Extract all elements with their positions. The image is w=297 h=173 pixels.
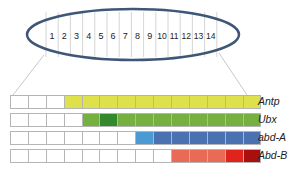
segment-number: 2	[62, 31, 67, 41]
segment-cell	[28, 131, 47, 145]
segment-cell	[28, 113, 47, 127]
segment-cell	[135, 131, 154, 145]
segment-cell	[64, 131, 83, 145]
segment-cell	[82, 131, 101, 145]
segment-cell	[171, 113, 190, 127]
segment-cell	[46, 113, 65, 127]
segment-number: 9	[147, 31, 152, 41]
segment-number: 3	[74, 31, 79, 41]
segment-cell	[46, 149, 65, 163]
segment-cell	[189, 95, 208, 109]
segment-cell	[117, 95, 136, 109]
segment-cell	[207, 131, 226, 145]
segment-cell	[153, 149, 172, 163]
segment-cell	[207, 113, 226, 127]
segment-numbers: 1234567891011121314	[50, 31, 216, 41]
segment-number: 4	[86, 31, 91, 41]
segment-cell	[153, 131, 172, 145]
gene-bar-ubx	[10, 113, 260, 126]
segment-cell	[99, 131, 118, 145]
segment-cell	[117, 113, 136, 127]
segment-cell	[99, 149, 118, 163]
segment-cell	[82, 149, 101, 163]
hox-expression-diagram: 1234567891011121314 AntpUbxabd-AAbd-B	[0, 0, 297, 173]
segment-cell	[10, 131, 29, 145]
segment-number: 8	[135, 31, 140, 41]
segment-number: 5	[98, 31, 103, 41]
segment-cell	[117, 149, 136, 163]
segment-cell	[135, 95, 154, 109]
segment-number: 13	[194, 31, 204, 41]
guide-line-right	[219, 53, 247, 95]
segment-cell	[28, 95, 47, 109]
gene-bar-antp	[10, 95, 260, 108]
segment-cell	[225, 95, 244, 109]
segment-cell	[171, 95, 190, 109]
segment-number: 7	[123, 31, 128, 41]
segment-number: 11	[170, 31, 179, 41]
guide-line-left	[13, 55, 44, 95]
gene-bar-abd-a	[10, 131, 260, 144]
segment-number: 10	[157, 31, 167, 41]
segment-number: 12	[182, 31, 192, 41]
segment-cell	[82, 95, 101, 109]
segment-dividers	[46, 12, 217, 57]
embryo-segments-diagram: 1234567891011121314	[0, 0, 297, 173]
segment-cell	[64, 95, 83, 109]
segment-cell	[10, 95, 29, 109]
segment-cell	[117, 131, 136, 145]
segment-cell	[153, 113, 172, 127]
segment-cell	[189, 131, 208, 145]
segment-cell	[82, 113, 101, 127]
segment-number: 14	[206, 31, 216, 41]
segment-cell	[225, 149, 244, 163]
gene-label: Ubx	[258, 113, 277, 126]
segment-cell	[99, 95, 118, 109]
segment-cell	[28, 149, 47, 163]
gene-label: abd-A	[258, 131, 286, 144]
segment-cell	[46, 95, 65, 109]
segment-cell	[135, 113, 154, 127]
gene-label: Abd-B	[258, 149, 287, 162]
gene-bar-abd-b	[10, 149, 260, 162]
segment-cell	[64, 149, 83, 163]
segment-cell	[225, 131, 244, 145]
segment-cell	[189, 149, 208, 163]
segment-cell	[207, 149, 226, 163]
segment-number: 1	[50, 31, 55, 41]
segment-cell	[64, 113, 83, 127]
segment-cell	[171, 149, 190, 163]
segment-cell	[135, 149, 154, 163]
segment-cell	[99, 113, 118, 127]
segment-cell	[10, 149, 29, 163]
segment-cell	[189, 113, 208, 127]
segment-cell	[10, 113, 29, 127]
segment-cell	[171, 131, 190, 145]
segment-number: 6	[111, 31, 116, 41]
segment-cell	[225, 113, 244, 127]
segment-cell	[46, 131, 65, 145]
segment-cell	[207, 95, 226, 109]
gene-label: Antp	[258, 95, 280, 108]
segment-cell	[153, 95, 172, 109]
